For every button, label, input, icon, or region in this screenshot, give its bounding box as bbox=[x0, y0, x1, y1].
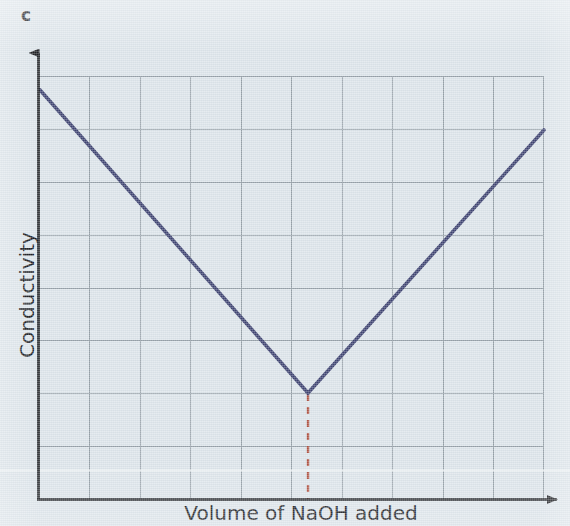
conductivity-titration-chart bbox=[0, 0, 570, 526]
y-axis-label: Conductivity bbox=[16, 185, 38, 405]
x-axis-label: Volume of NaOH added bbox=[0, 501, 570, 525]
figure-panel: c bbox=[0, 0, 570, 526]
